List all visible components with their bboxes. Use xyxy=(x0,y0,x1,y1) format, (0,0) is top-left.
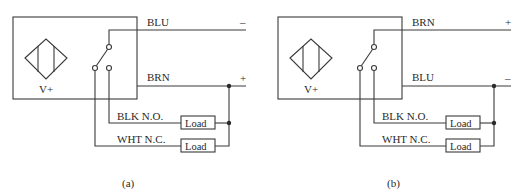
common-return xyxy=(480,86,494,146)
junction-dot xyxy=(492,121,496,125)
no-wire-label: BLK N.O. xyxy=(117,110,163,122)
load-no-label: Load xyxy=(185,118,207,129)
load-no-label: Load xyxy=(450,118,472,129)
supply-label: V+ xyxy=(304,83,318,95)
top-wire-label: BRN xyxy=(412,16,435,28)
middle-wire-label: BLU xyxy=(412,71,434,83)
load-nc-label: Load xyxy=(185,141,207,152)
panel-a: V+ BLU – BRN + BLK N.O. WHT N.C. Load Lo… xyxy=(13,16,246,190)
nc-wire-label: WHT N.C. xyxy=(117,133,166,145)
nc-wire-label: WHT N.C. xyxy=(382,133,431,145)
middle-wire-polarity: + xyxy=(240,72,246,84)
middle-wire-label: BRN xyxy=(147,71,170,83)
middle-wire-polarity: – xyxy=(504,72,511,84)
load-nc-label: Load xyxy=(450,141,472,152)
supply-label: V+ xyxy=(39,83,53,95)
no-wire-label: BLK N.O. xyxy=(382,110,428,122)
panel-caption: (b) xyxy=(387,177,400,190)
junction-dot xyxy=(227,121,231,125)
sensor-housing xyxy=(13,17,137,99)
top-wire-label: BLU xyxy=(147,16,169,28)
top-wire-polarity: + xyxy=(505,16,511,28)
switch-icon xyxy=(358,30,512,71)
panel-caption: (a) xyxy=(122,177,135,190)
switch-icon xyxy=(93,30,247,71)
panel-b: V+ BRN + BLU – BLK N.O. WHT N.C. Load Lo… xyxy=(278,16,511,190)
top-wire-polarity: – xyxy=(239,16,246,28)
sensor-housing xyxy=(278,17,402,99)
proximity-sensor-icon xyxy=(290,39,332,79)
junction-dot xyxy=(492,84,496,88)
junction-dot xyxy=(227,84,231,88)
proximity-sensor-icon xyxy=(25,39,67,79)
common-return xyxy=(215,86,229,146)
wiring-diagram: V+ BLU – BRN + BLK N.O. WHT N.C. Load Lo… xyxy=(0,0,526,196)
